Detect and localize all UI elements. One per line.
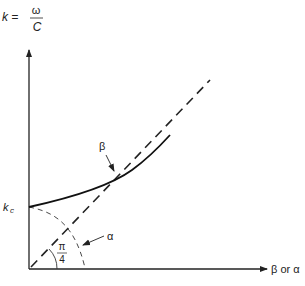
y-label-numerator: ω (32, 4, 41, 16)
kc-label: k c (3, 201, 14, 215)
kc-k: k (3, 201, 9, 213)
alpha-curve-dashed (29, 207, 85, 268)
x-axis-label: β or α (271, 263, 300, 275)
angle-arc (49, 249, 57, 269)
beta-arrow (106, 155, 114, 171)
dispersion-diagram: k = ω C π 4 k c β α β or α (0, 0, 305, 286)
alpha-label: α (107, 230, 114, 242)
y-axis-label: k = ω C (2, 4, 43, 34)
alpha-arrow (83, 236, 104, 245)
angle-denominator: 4 (59, 254, 65, 265)
y-label-denominator: C (33, 20, 42, 34)
kc-subscript: c (10, 206, 14, 215)
beta-label: β (99, 140, 105, 152)
angle-label: π 4 (57, 241, 67, 265)
angle-numerator: π (59, 241, 66, 252)
y-label-lhs: k = (2, 10, 18, 24)
light-line-dashed (31, 80, 210, 267)
